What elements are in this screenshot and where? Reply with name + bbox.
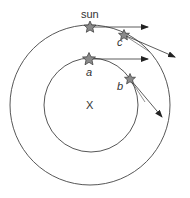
star-label-c: c (117, 37, 123, 48)
orbit-diagram: sun c a b X (0, 0, 190, 198)
c-trajectory-line-2 (124, 35, 150, 52)
star-label-a: a (86, 67, 92, 78)
diagram-svg (0, 0, 190, 198)
star-icon-a (83, 53, 96, 65)
star-icon-b (125, 74, 136, 84)
sun-label: sun (81, 9, 99, 20)
c-trajectory-line (124, 35, 175, 57)
star-icon-sun (84, 21, 96, 32)
center-label: X (86, 100, 93, 111)
star-label-b: b (117, 81, 123, 92)
b-arrow (130, 79, 162, 117)
